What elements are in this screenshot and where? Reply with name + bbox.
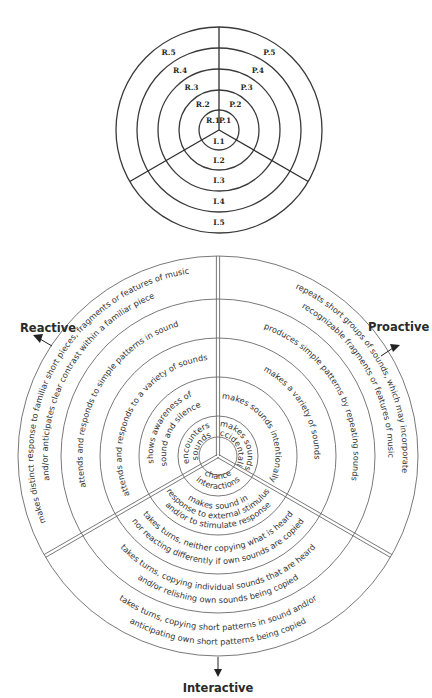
summary-divider — [219, 130, 308, 182]
reactive-arrow — [33, 334, 52, 346]
summary-label-r-5: R.5 — [162, 48, 176, 57]
summary-label-r-2: R.2 — [196, 100, 210, 109]
interactive-axis-label: Interactive — [183, 681, 254, 695]
reactive-level-5-text: and/or anticipates clear contrast within… — [40, 290, 156, 481]
framework-diagram: R.1R.2R.3R.4R.5P.1P.2P.3P.4P.5I.1I.2I.3I… — [0, 0, 432, 698]
summary-label-i-2: I.2 — [213, 156, 224, 165]
proactive-axis-label: Proactive — [368, 320, 430, 334]
proactive-arrow-icon — [390, 344, 400, 352]
summary-label-r-3: R.3 — [184, 83, 198, 92]
summary-label-r-4: R.4 — [173, 66, 187, 75]
reactive-axis-label: Reactive — [20, 321, 76, 335]
reactive-level-5-text: makes distinct response to familiar shor… — [25, 266, 190, 526]
framework-ring-4 — [100, 338, 336, 574]
summary-label-i-3: I.3 — [213, 176, 224, 185]
summary-label-p-1: P.1 — [219, 116, 231, 125]
summary-label-i-4: I.4 — [213, 197, 224, 206]
summary-label-p-4: P.4 — [252, 66, 264, 75]
summary-label-i-1: I.1 — [213, 137, 224, 146]
summary-label-i-5: I.5 — [213, 218, 224, 227]
summary-circle-diagram: R.1R.2R.3R.4R.5P.1P.2P.3P.4P.5I.1I.2I.3I… — [116, 27, 322, 233]
summary-label-p-5: P.5 — [263, 48, 275, 57]
summary-divider — [130, 130, 219, 182]
detailed-framework-diagram: encounterssoundsshows awareness ofsound … — [0, 0, 430, 695]
summary-label-p-2: P.2 — [229, 100, 241, 109]
summary-label-p-3: P.3 — [240, 83, 252, 92]
interactive-arrow — [214, 657, 222, 677]
proactive-level-3-text: makes a variety of sounds — [262, 364, 322, 460]
reactive-arrow-icon — [33, 334, 43, 343]
interactive-arrow-icon — [214, 669, 222, 677]
